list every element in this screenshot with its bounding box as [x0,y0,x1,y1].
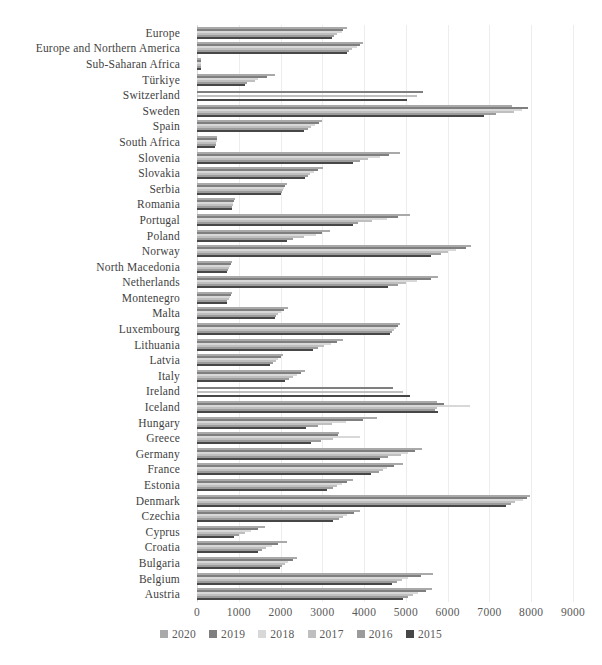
category-label: Denmark [0,493,189,509]
bar-group [197,72,573,88]
category-label: Europe [0,25,189,41]
bar [197,583,392,585]
bar [197,286,388,288]
bar-row: Germany [0,446,602,462]
category-label: Türkiye [0,72,189,88]
bar-row: Montenegro [0,290,602,306]
legend-swatch-icon [209,630,217,638]
category-label: Netherlands [0,275,189,291]
bar-row: Europe and Northern America [0,41,602,57]
bar-group [197,103,573,119]
bar-row: Bulgaria [0,555,602,571]
legend-label: 2016 [369,628,393,640]
bar-group [197,306,573,322]
bar-row: Belgium [0,571,602,587]
legend-item: 2019 [209,628,245,640]
bar-group [197,337,573,353]
bar [197,489,327,491]
bar [197,567,280,569]
bar-group [197,290,573,306]
bar-row: Czechia [0,508,602,524]
bar-row: Europe [0,25,602,41]
bar [197,349,313,351]
bar [197,84,245,86]
bar [197,473,371,475]
bar [197,442,311,444]
legend-swatch-icon [258,630,266,638]
bar-row: South Africa [0,134,602,150]
bar-row: Hungary [0,415,602,431]
category-label: Czechia [0,508,189,524]
bar-group [197,399,573,415]
bar-row: Latvia [0,352,602,368]
bar-row: Slovakia [0,165,602,181]
bar-row: Spain [0,119,602,135]
category-label: Hungary [0,415,189,431]
bar [197,520,333,522]
bar-row: France [0,462,602,478]
x-axis-tick-label: 0 [194,606,200,618]
x-axis-tick-label: 6000 [436,606,460,618]
bar [197,380,285,382]
bar-row: Denmark [0,493,602,509]
bar-group [197,87,573,103]
legend-item: 2017 [308,628,344,640]
bar-group [197,119,573,135]
bar-group [197,430,573,446]
category-label: Portugal [0,212,189,228]
bar-row: North Macedonia [0,259,602,275]
x-axis-tick-label: 7000 [477,606,501,618]
x-axis-tick-label: 2000 [268,606,292,618]
x-axis-tick-label: 1000 [227,606,251,618]
bar [197,551,258,553]
bar-group [197,368,573,384]
bar [197,598,403,600]
category-label: Italy [0,368,189,384]
category-label: Norway [0,243,189,259]
x-axis-tick-label: 4000 [352,606,376,618]
bar [197,177,305,179]
bar-row: Norway [0,243,602,259]
bar-chart: EuropeEurope and Northern AmericaSub-Sah… [0,0,602,665]
bar-group [197,352,573,368]
chart-legend: 202020192018201720162015 [0,628,602,640]
bar-row: Estonia [0,477,602,493]
category-label: Romania [0,197,189,213]
bar [197,391,403,393]
bar [197,37,332,39]
bar-group [197,150,573,166]
bar-group [197,540,573,556]
bar-group [197,243,573,259]
bar [197,458,380,460]
bar-row: Cyprus [0,524,602,540]
bar [197,333,390,335]
legend-swatch-icon [406,630,414,638]
bar [197,130,304,132]
category-label: Sub-Saharan Africa [0,56,189,72]
x-axis-tick-label: 9000 [561,606,585,618]
bar-group [197,446,573,462]
bar [197,99,407,101]
bar-group [197,259,573,275]
legend-item: 2015 [406,628,442,640]
bar-row: Switzerland [0,87,602,103]
category-label: Poland [0,228,189,244]
bar [197,240,287,242]
category-label: Croatia [0,540,189,556]
bar-row: Serbia [0,181,602,197]
bar [197,95,417,97]
category-label: Greece [0,430,189,446]
x-axis: 0100020003000400050006000700080009000 [0,606,602,622]
category-label: Iceland [0,399,189,415]
bar-group [197,134,573,150]
bar-row: Romania [0,197,602,213]
legend-label: 2018 [270,628,294,640]
legend-swatch-icon [160,630,168,638]
bar-row: Poland [0,228,602,244]
bar-row: Sweden [0,103,602,119]
bar-group [197,41,573,57]
bar [197,68,201,70]
legend-swatch-icon [357,630,365,638]
bar-row: Greece [0,430,602,446]
bar-group [197,508,573,524]
